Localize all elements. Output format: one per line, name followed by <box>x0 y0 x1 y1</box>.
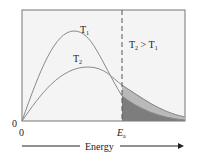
arrow-head-icon <box>178 143 184 149</box>
x-axis-label: Energy <box>85 141 114 152</box>
plot-area <box>22 10 185 121</box>
ea-label: Ea <box>116 127 126 139</box>
y-origin-label: 0 <box>12 118 17 129</box>
temperature-annotation: T2 > T1 <box>129 39 158 51</box>
energy-distribution-chart: T1 T2 T2 > T1 0 0 Ea Energy <box>0 0 197 158</box>
x-origin-label: 0 <box>19 127 24 138</box>
